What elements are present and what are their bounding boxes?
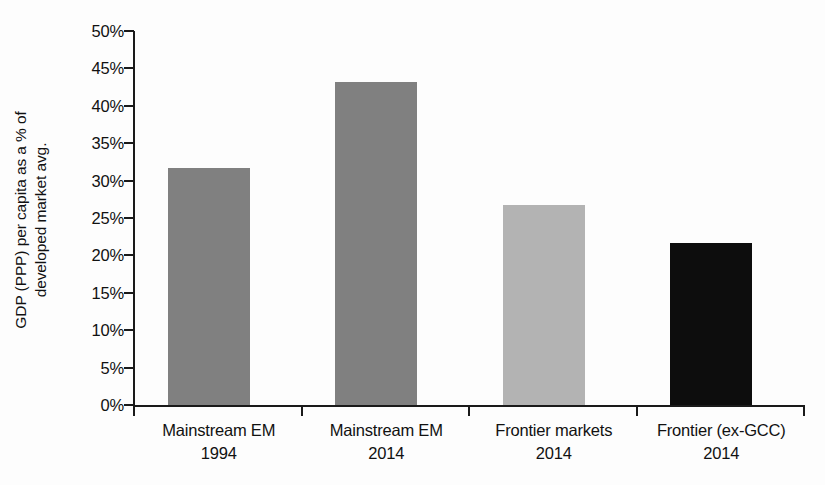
x-axis-category-label-line-1: Mainstream EM — [330, 421, 443, 439]
bar — [670, 243, 752, 405]
y-axis-tick-label: 10% — [92, 322, 124, 339]
bar — [335, 82, 417, 405]
y-axis-tick-mark — [124, 329, 134, 331]
x-axis-category-label-line-2: 1994 — [123, 442, 315, 465]
y-axis-tick-label: 15% — [92, 284, 124, 301]
y-axis-tick-mark — [124, 367, 134, 369]
x-axis-tick-mark — [301, 405, 303, 416]
x-axis-category-label: Mainstream EM1994 — [123, 419, 315, 465]
y-axis-tick-mark — [124, 180, 134, 182]
y-axis-tick-mark — [124, 105, 134, 107]
y-axis-tick-label: 35% — [92, 135, 124, 152]
y-axis-tick-label: 0% — [101, 397, 124, 414]
y-axis-title-line-1: GDP (PPP) per capita as a % of — [11, 111, 31, 328]
y-axis-tick-mark — [124, 217, 134, 219]
x-axis-category-label-line-1: Mainstream EM — [162, 421, 275, 439]
y-axis-tick-mark — [124, 254, 134, 256]
x-axis-tick-mark — [133, 405, 135, 416]
y-axis-tick-labels: 0%5%10%15%20%25%30%35%40%45%50% — [62, 0, 128, 485]
x-axis-category-label-line-1: Frontier markets — [495, 421, 612, 439]
y-axis-tick-mark — [124, 67, 134, 69]
x-axis-category-labels: Mainstream EM1994Mainstream EM2014Fronti… — [135, 419, 805, 481]
y-axis-tick-mark — [124, 142, 134, 144]
y-axis-title: GDP (PPP) per capita as a % of developed… — [0, 0, 62, 440]
x-axis-category-label-line-2: 2014 — [458, 442, 650, 465]
y-axis-tick-label: 45% — [92, 60, 124, 77]
bar-chart-figure: GDP (PPP) per capita as a % of developed… — [0, 0, 825, 485]
y-axis-tick-label: 30% — [92, 172, 124, 189]
plot-area — [135, 31, 805, 405]
x-axis-category-label-line-2: 2014 — [291, 442, 483, 465]
y-axis-title-line-2: developed market avg. — [31, 111, 51, 328]
x-axis-category-label: Frontier (ex-GCC)2014 — [626, 419, 818, 465]
y-axis-tick-mark — [124, 292, 134, 294]
y-axis-tick-label: 40% — [92, 97, 124, 114]
y-axis-tick-label: 50% — [92, 23, 124, 40]
x-axis-tick-mark — [468, 405, 470, 416]
x-axis-tick-mark — [803, 405, 805, 416]
x-axis-category-label: Frontier markets2014 — [458, 419, 650, 465]
x-axis-tick-mark — [636, 405, 638, 416]
x-axis-category-label: Mainstream EM2014 — [291, 419, 483, 465]
y-axis-tick-label: 25% — [92, 210, 124, 227]
y-axis-tick-mark — [124, 30, 134, 32]
x-axis-category-label-line-1: Frontier (ex-GCC) — [657, 421, 786, 439]
y-axis-tick-label: 20% — [92, 247, 124, 264]
bar — [503, 205, 585, 405]
y-axis-tick-label: 5% — [101, 359, 124, 376]
bar — [168, 168, 250, 405]
x-axis-category-label-line-2: 2014 — [626, 442, 818, 465]
